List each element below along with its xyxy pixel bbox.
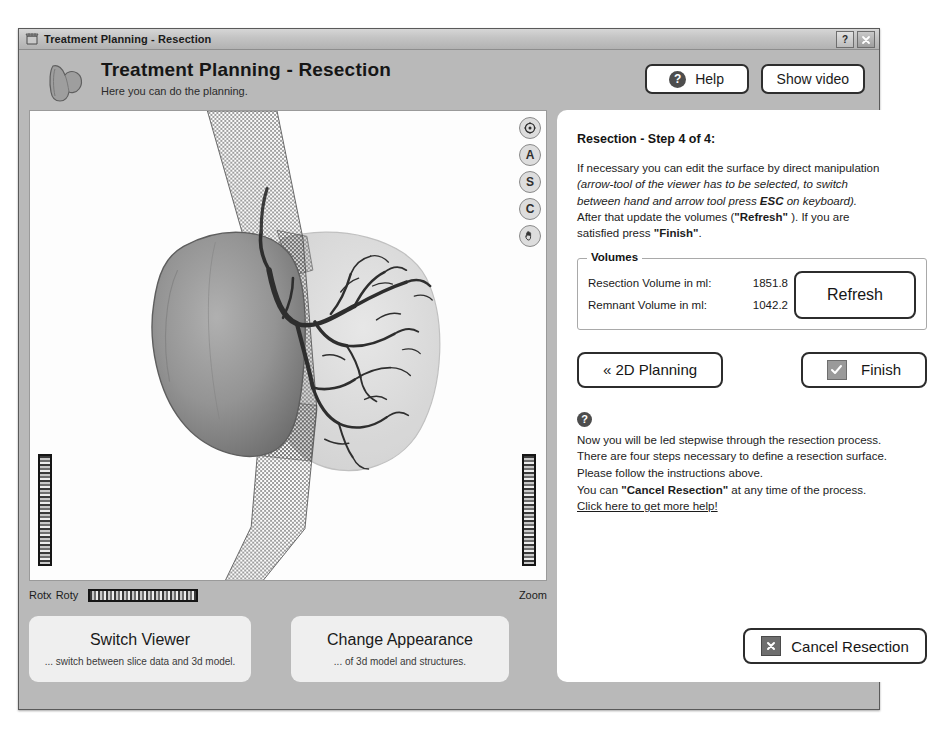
help-line-1: Now you will be led stepwise through the… (577, 434, 881, 446)
back-to-2d-planning-button[interactable]: « 2D Planning (577, 352, 723, 388)
help-description: Now you will be led stepwise through the… (577, 432, 927, 515)
table-row: Resection Volume in ml: 1851.8 (588, 273, 788, 295)
left-vertical-slider[interactable] (38, 454, 52, 566)
hand-tool-icon[interactable] (519, 225, 541, 247)
instruction-text: If necessary you can edit the surface by… (577, 160, 927, 242)
more-help-link[interactable]: Click here to get more help! (577, 498, 718, 515)
axial-view-icon[interactable]: A (519, 144, 541, 166)
instruction-finish-word: "Finish" (654, 227, 699, 239)
page-header: Treatment Planning - Resection Here you … (29, 58, 869, 106)
resection-volume-value: 1851.8 (736, 273, 788, 295)
page-subtitle: Here you can do the planning. (101, 85, 391, 97)
viewer-option-cards: Switch Viewer ... switch between slice d… (29, 616, 547, 682)
refresh-button[interactable]: Refresh (794, 271, 916, 319)
page-title: Treatment Planning - Resection (101, 60, 391, 81)
show-video-button-label: Show video (777, 71, 849, 87)
3d-render-canvas[interactable] (30, 111, 546, 580)
resection-panel: Resection - Step 4 of 4: If necessary yo… (557, 110, 931, 682)
help-line-4a: You can (577, 484, 621, 496)
rotx-label: Rotx (29, 589, 52, 601)
viewer-toolbar: A S C (517, 117, 543, 247)
window-close-button[interactable] (857, 31, 875, 48)
roty-label: Roty (56, 589, 79, 601)
window-body: Treatment Planning - Resection Here you … (19, 50, 879, 709)
application-icon (25, 32, 39, 46)
help-line-3: Please follow the instructions above. (577, 467, 763, 479)
instruction-esc-key: ESC (760, 195, 784, 207)
instruction-italic-3: on keyboard). (784, 195, 858, 207)
help-button-label: Help (695, 71, 724, 87)
x-icon (761, 636, 781, 656)
slider-track (40, 456, 50, 564)
cancel-resection-label: Cancel Resection (791, 638, 909, 655)
rotation-slider[interactable] (88, 589, 198, 602)
table-row: Remnant Volume in ml: 1042.2 (588, 295, 788, 317)
instruction-line-2a: After that update the volumes ( (577, 211, 734, 223)
finish-button-label: Finish (861, 361, 901, 378)
instruction-refresh-word: "Refresh" (734, 211, 788, 223)
slider-track (90, 591, 196, 600)
cancel-area: Cancel Resection (743, 628, 927, 664)
finish-button[interactable]: Finish (801, 352, 927, 388)
instruction-line-1: If necessary you can edit the surface by… (577, 162, 879, 174)
switch-viewer-subtitle: ... switch between slice data and 3d mod… (45, 655, 236, 669)
viewer-column: A S C (29, 110, 547, 682)
header-actions: ? Help Show video (645, 64, 865, 94)
help-line-2: There are four steps necessary to define… (577, 450, 887, 462)
cancel-resection-button[interactable]: Cancel Resection (743, 628, 927, 664)
navigation-row: « 2D Planning Finish (577, 352, 927, 388)
question-mark-icon: ? (577, 412, 592, 427)
titlebar: Treatment Planning - Resection ? (19, 29, 879, 50)
coronal-view-icon[interactable]: C (519, 198, 541, 220)
content-area: A S C (29, 110, 869, 682)
sagittal-view-icon[interactable]: S (519, 171, 541, 193)
checkmark-icon (827, 360, 847, 380)
step-title: Resection - Step 4 of 4: (577, 132, 927, 146)
help-button[interactable]: ? Help (645, 64, 749, 94)
viewer-control-bar: Rotx Roty Zoom (29, 584, 547, 606)
window-help-button[interactable]: ? (836, 31, 854, 48)
change-appearance-title: Change Appearance (327, 630, 473, 649)
volumes-content: Resection Volume in ml: 1851.8 Remnant V… (588, 271, 916, 319)
instruction-italic-2: between hand and arrow tool press (577, 195, 760, 207)
window-controls: ? (836, 31, 875, 48)
volumes-legend: Volumes (587, 251, 642, 263)
switch-viewer-button[interactable]: Switch Viewer ... switch between slice d… (29, 616, 251, 682)
resection-volume-label: Resection Volume in ml: (588, 273, 736, 295)
volume-rows: Resection Volume in ml: 1851.8 Remnant V… (588, 273, 788, 317)
instruction-line-3a: satisfied press (577, 227, 654, 239)
switch-viewer-title: Switch Viewer (90, 630, 190, 649)
volumes-group: Volumes Resection Volume in ml: 1851.8 R… (577, 258, 927, 330)
instruction-line-3b: . (698, 227, 701, 239)
window-title: Treatment Planning - Resection (44, 33, 211, 45)
liver-organ-icon (43, 60, 89, 106)
instruction-italic-1: (arrow-tool of the viewer has to be sele… (577, 178, 848, 190)
right-vertical-slider[interactable] (522, 454, 536, 566)
zoom-label: Zoom (519, 589, 547, 601)
slider-track (524, 456, 534, 564)
help-line-4b: at any time of the process. (728, 484, 866, 496)
remnant-volume-label: Remnant Volume in ml: (588, 295, 736, 317)
help-block: ? Now you will be led stepwise through t… (577, 412, 927, 515)
instruction-line-2b: ). If you are (788, 211, 849, 223)
3d-viewer[interactable]: A S C (29, 110, 547, 581)
change-appearance-button[interactable]: Change Appearance ... of 3d model and st… (291, 616, 509, 682)
remnant-volume-value: 1042.2 (736, 295, 788, 317)
help-cancel-phrase: "Cancel Resection" (621, 484, 728, 496)
show-video-button[interactable]: Show video (761, 64, 865, 94)
header-text-group: Treatment Planning - Resection Here you … (101, 60, 391, 97)
application-window: Treatment Planning - Resection ? Treatme (18, 28, 880, 710)
reset-view-icon[interactable] (519, 117, 541, 139)
change-appearance-subtitle: ... of 3d model and structures. (334, 655, 466, 669)
question-mark-icon: ? (669, 71, 686, 88)
